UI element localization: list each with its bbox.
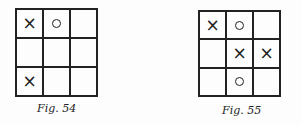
grid-cell: × (16, 9, 43, 38)
grid-cell: × (226, 39, 253, 67)
grid-cell: × (16, 67, 43, 96)
grid-cell (70, 9, 97, 38)
cross-mark-icon: × (205, 17, 219, 34)
tic-tac-toe-grid-fig-55: ××× (198, 10, 281, 97)
grid-cell (16, 38, 43, 67)
cross-mark-icon: × (232, 45, 246, 62)
grid-cell (43, 38, 70, 67)
grid-cell: × (199, 11, 226, 39)
grid-cell (70, 67, 97, 96)
grid-cell (253, 68, 280, 96)
grid-cell (199, 68, 226, 96)
grid-cell (226, 68, 253, 96)
nought-mark-icon (235, 77, 244, 86)
cross-mark-icon: × (22, 73, 36, 90)
figure-caption: Fig. 55 (222, 104, 261, 117)
grid-cell (253, 11, 280, 39)
grid-cell: × (253, 39, 280, 67)
grid-cell (70, 38, 97, 67)
cross-mark-icon: × (259, 45, 273, 62)
grid-cell (43, 67, 70, 96)
tic-tac-toe-grid-fig-54: ×× (15, 8, 98, 97)
cross-mark-icon: × (22, 15, 36, 32)
grid-cell (199, 39, 226, 67)
nought-mark-icon (235, 21, 244, 30)
grid-cell (43, 9, 70, 38)
figure-caption: Fig. 54 (37, 102, 76, 115)
nought-mark-icon (52, 19, 61, 28)
grid-cell (226, 11, 253, 39)
